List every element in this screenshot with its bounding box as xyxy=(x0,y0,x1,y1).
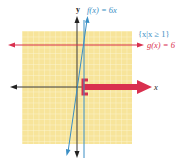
domain-set-label: {x|x ≥ 1} xyxy=(138,30,170,39)
f-function-label: f(x) = 6x xyxy=(87,6,117,15)
y-axis-label: y xyxy=(76,6,80,14)
coordinate-graph: y f(x) = 6x {x|x ≥ 1} g(x) = 6 x xyxy=(0,0,180,161)
graph-canvas xyxy=(0,0,180,161)
x-axis-label: x xyxy=(154,83,158,92)
g-function-label: g(x) = 6 xyxy=(147,41,175,50)
